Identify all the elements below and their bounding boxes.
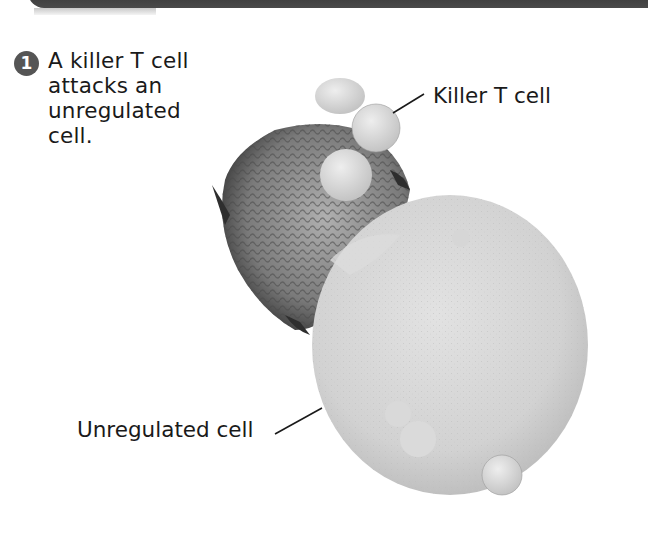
killer-t-cell-label: Killer T cell <box>433 83 551 109</box>
caption-line: unregulated <box>48 98 189 123</box>
step-number-badge: 1 <box>14 51 39 76</box>
unregulated-cell-body <box>312 195 588 495</box>
step-caption-text: A killer T cell attacks an unregulated c… <box>48 48 189 148</box>
unregulated-cell-label: Unregulated cell <box>77 417 254 443</box>
caption-line: cell. <box>48 123 189 148</box>
caption-line: A killer T cell <box>48 48 189 73</box>
killer-t-cell-leader-line <box>393 94 424 113</box>
caption-line: attacks an <box>48 73 189 98</box>
step-caption: 1 A killer T cell attacks an unregulated… <box>14 48 189 148</box>
unregulated-cell-leader-line <box>275 408 322 434</box>
